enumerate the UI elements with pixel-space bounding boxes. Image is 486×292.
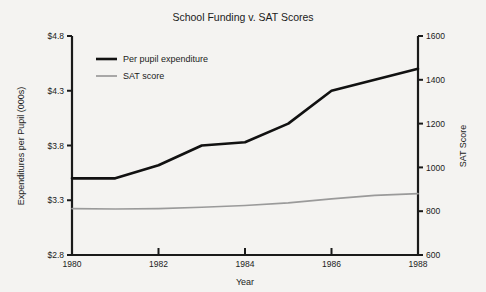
legend-label-expenditure: Per pupil expenditure bbox=[123, 54, 208, 64]
series-lines bbox=[72, 69, 418, 209]
right-axis: 6008001000120014001600 bbox=[418, 31, 445, 260]
series-line-per-pupil-expenditure bbox=[72, 69, 418, 179]
right-axis-tick-label: 1400 bbox=[426, 75, 445, 85]
right-axis-tick-label: 1600 bbox=[426, 31, 445, 41]
legend-label-sat: SAT score bbox=[123, 71, 164, 81]
x-axis-title: Year bbox=[236, 277, 254, 287]
left-axis-tick-label: $3.3 bbox=[47, 195, 64, 205]
right-axis-tick-label: 600 bbox=[426, 250, 440, 260]
right-axis-tick-label: 1000 bbox=[426, 163, 445, 173]
y2-axis-title: SAT Score bbox=[458, 125, 468, 168]
right-axis-tick-label: 800 bbox=[426, 206, 440, 216]
x-axis-tick-label: 1988 bbox=[409, 259, 428, 269]
school-funding-sat-line-chart: School Funding v. SAT Scores $2.8$3.3$3.… bbox=[0, 0, 486, 292]
x-axis-tick-label: 1986 bbox=[322, 259, 341, 269]
x-axis-tick-label: 1982 bbox=[149, 259, 168, 269]
y-axis-title: Expenditures per Pupil (000s) bbox=[16, 87, 26, 206]
left-axis-tick-label: $3.8 bbox=[47, 141, 64, 151]
x-axis-tick-label: 1984 bbox=[236, 259, 255, 269]
x-axis-tick-label: 1980 bbox=[63, 259, 82, 269]
chart-title: School Funding v. SAT Scores bbox=[172, 11, 313, 23]
series-line-sat-score bbox=[72, 194, 418, 209]
chart-container: School Funding v. SAT Scores $2.8$3.3$3.… bbox=[0, 0, 486, 292]
chart-legend: Per pupil expenditure SAT score bbox=[96, 54, 208, 81]
right-axis-tick-label: 1200 bbox=[426, 119, 445, 129]
left-axis-tick-label: $4.3 bbox=[47, 86, 64, 96]
left-axis: $2.8$3.3$3.8$4.3$4.8 bbox=[47, 31, 72, 260]
left-axis-tick-label: $4.8 bbox=[47, 31, 64, 41]
x-axis: 19801982198419861988 bbox=[63, 248, 428, 269]
